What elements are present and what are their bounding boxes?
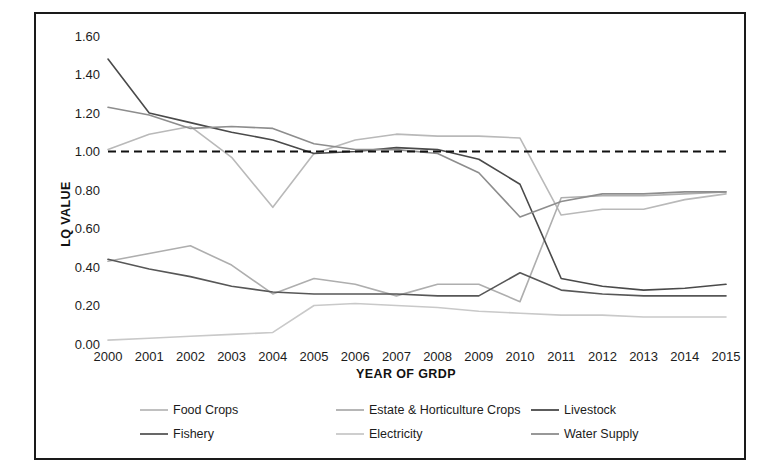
x-axis-title: YEAR OF GRDP (356, 367, 456, 381)
x-tick-label: 2009 (464, 349, 493, 364)
legend-item-electricity[interactable]: Electricity (336, 427, 423, 441)
y-tick-label: 0.20 (75, 298, 100, 313)
legend-item-water-supply[interactable]: Water Supply (531, 427, 639, 441)
y-tick-label: 0.60 (75, 221, 100, 236)
legend-item-food-crops[interactable]: Food Crops (140, 403, 238, 417)
x-tick-label: 2010 (506, 349, 535, 364)
x-tick-label: 2015 (712, 349, 741, 364)
series-line-food-crops (108, 126, 726, 215)
x-tick-label: 2002 (176, 349, 205, 364)
x-tick-label: 2013 (629, 349, 658, 364)
x-tick-label: 2011 (547, 349, 575, 364)
y-tick-label: 1.40 (75, 67, 100, 82)
plot-series-group (108, 59, 726, 340)
x-tick-label: 2008 (423, 349, 452, 364)
y-axis-title: LQ VALUE (59, 181, 73, 246)
x-axis-tick-labels: 2000200120022003200420052006200720082009… (94, 349, 741, 364)
series-line-water-supply (108, 107, 726, 217)
x-tick-label: 2001 (135, 349, 164, 364)
x-tick-label: 2014 (670, 349, 699, 364)
legend-label: Estate & Horticulture Crops (369, 403, 520, 417)
line-chart: 0.000.200.400.600.801.001.201.401.60 LQ … (36, 14, 744, 458)
y-tick-label: 0.80 (75, 183, 100, 198)
series-line-estate-horticulture-crops (108, 192, 726, 302)
legend-item-estate-horticulture-crops[interactable]: Estate & Horticulture Crops (336, 403, 520, 417)
chart-figure-frame: 0.000.200.400.600.801.001.201.401.60 LQ … (34, 12, 746, 460)
x-tick-label: 2000 (94, 349, 123, 364)
x-tick-label: 2012 (588, 349, 617, 364)
legend-label: Electricity (369, 427, 423, 441)
y-axis-tick-labels: 0.000.200.400.600.801.001.201.401.60 (75, 29, 100, 352)
x-axis-title-label: YEAR OF GRDP (356, 367, 456, 381)
x-tick-label: 2003 (217, 349, 246, 364)
y-tick-label: 1.60 (75, 29, 100, 44)
legend-item-fishery[interactable]: Fishery (140, 427, 215, 441)
legend-label: Livestock (564, 403, 617, 417)
y-tick-label: 1.00 (75, 144, 100, 159)
chart-legend: Food CropsEstate & Horticulture CropsLiv… (140, 403, 639, 441)
y-axis-title-label: LQ VALUE (59, 181, 73, 246)
legend-item-livestock[interactable]: Livestock (531, 403, 617, 417)
y-tick-label: 0.40 (75, 260, 100, 275)
series-line-livestock (108, 59, 726, 290)
x-tick-label: 2007 (382, 349, 411, 364)
legend-label: Food Crops (173, 403, 238, 417)
x-tick-label: 2004 (258, 349, 287, 364)
legend-label: Water Supply (564, 427, 639, 441)
legend-label: Fishery (173, 427, 215, 441)
y-tick-label: 1.20 (75, 106, 100, 121)
x-tick-label: 2005 (300, 349, 329, 364)
x-tick-label: 2006 (341, 349, 370, 364)
series-line-electricity (108, 304, 726, 341)
